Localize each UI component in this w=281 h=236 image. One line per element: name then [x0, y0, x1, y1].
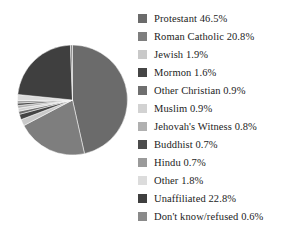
legend-item[interactable]: Unaffiliated 22.8%	[138, 189, 281, 207]
legend-swatch-icon	[138, 194, 147, 203]
legend-item-label: Hindu 0.7%	[154, 157, 206, 168]
pie-chart-figure: Protestant 46.5% Roman Catholic 20.8% Je…	[0, 0, 281, 236]
legend-swatch-icon	[138, 50, 147, 59]
legend-swatch-icon	[138, 212, 147, 221]
page-caption-strip	[0, 228, 281, 236]
legend-swatch-icon	[138, 158, 147, 167]
legend-item[interactable]: Other 1.8%	[138, 171, 281, 189]
legend-swatch-icon	[138, 68, 147, 77]
legend-item[interactable]: Jehovah's Witness 0.8%	[138, 117, 281, 135]
legend-swatch-icon	[138, 122, 147, 131]
legend-item[interactable]: Protestant 46.5%	[138, 9, 281, 27]
legend-swatch-icon	[138, 32, 147, 41]
legend-item-label: Roman Catholic 20.8%	[154, 31, 254, 42]
legend-item[interactable]: Roman Catholic 20.8%	[138, 27, 281, 45]
chart-legend: Protestant 46.5% Roman Catholic 20.8% Je…	[138, 9, 281, 225]
legend-item[interactable]: Other Christian 0.9%	[138, 81, 281, 99]
legend-swatch-icon	[138, 176, 147, 185]
legend-swatch-icon	[138, 86, 147, 95]
legend-item-label: Protestant 46.5%	[154, 13, 227, 24]
pie-slice-group	[17, 45, 127, 155]
pie-chart-svg	[17, 35, 128, 166]
legend-item-label: Muslim 0.9%	[154, 103, 212, 114]
legend-item-label: Don't know/refused 0.6%	[154, 211, 263, 222]
legend-swatch-icon	[138, 14, 147, 23]
legend-item[interactable]: Mormon 1.6%	[138, 63, 281, 81]
legend-item[interactable]: Muslim 0.9%	[138, 99, 281, 117]
pie-slice[interactable]	[18, 45, 73, 100]
legend-item[interactable]: Buddhist 0.7%	[138, 135, 281, 153]
legend-item-label: Mormon 1.6%	[154, 67, 216, 78]
legend-item-label: Unaffiliated 22.8%	[154, 193, 236, 204]
legend-item-label: Buddhist 0.7%	[154, 139, 218, 150]
legend-item[interactable]: Jewish 1.9%	[138, 45, 281, 63]
legend-item[interactable]: Don't know/refused 0.6%	[138, 207, 281, 225]
legend-swatch-icon	[138, 140, 147, 149]
legend-item[interactable]: Hindu 0.7%	[138, 153, 281, 171]
legend-item-label: Jehovah's Witness 0.8%	[154, 121, 257, 132]
legend-item-label: Jewish 1.9%	[154, 49, 208, 60]
legend-item-label: Other 1.8%	[154, 175, 203, 186]
legend-item-label: Other Christian 0.9%	[154, 85, 246, 96]
pie-chart-plot-area	[17, 35, 128, 166]
legend-swatch-icon	[138, 104, 147, 113]
